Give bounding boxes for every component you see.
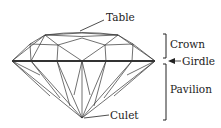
girdle-label: Girdle <box>182 55 215 67</box>
crown-bracket <box>163 34 166 58</box>
culet-label: Culet <box>110 109 139 121</box>
diamond-drawing <box>12 33 155 119</box>
pavilion-label: Pavilion <box>170 83 212 95</box>
table-leader <box>80 20 104 31</box>
diamond-diagram: Table Culet Crown Girdle Pavilion <box>0 0 221 128</box>
crown-facets <box>12 35 155 61</box>
girdle-arrow-icon <box>168 58 175 64</box>
table-label: Table <box>106 11 135 23</box>
crown-label: Crown <box>170 38 205 50</box>
pavilion-bracket <box>163 64 166 120</box>
culet-leader <box>84 115 109 118</box>
